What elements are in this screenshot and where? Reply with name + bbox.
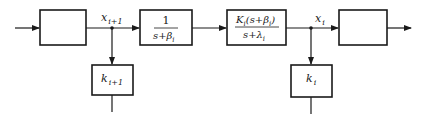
block-1	[40, 10, 86, 45]
block-4	[339, 10, 387, 45]
block-diagram: xi+1 1 s+βi Ki(s+βi) s+λi xi ki+1 ki	[0, 0, 426, 117]
signal-label-x-i: xi	[315, 12, 325, 27]
block-2-numerator: 1	[163, 14, 170, 27]
signal-label-x-i-plus-1: xi+1	[101, 11, 123, 26]
